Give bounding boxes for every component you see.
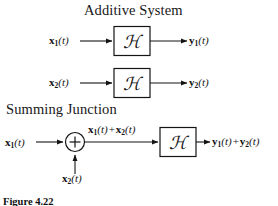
arg-t: (t)	[14, 136, 24, 148]
summing-input-bottom-label: x2(t)	[62, 173, 82, 184]
script-H-icon: ℋ	[169, 133, 190, 153]
adder-circle	[66, 133, 85, 152]
additive-row1-input-label: x1(t)	[49, 35, 69, 46]
arg-t: (t)	[71, 172, 81, 184]
script-H-icon: ℋ	[123, 32, 144, 52]
arg-t: (t)	[221, 135, 231, 147]
summing-input-left-label: x1(t)	[5, 137, 25, 148]
additive-row2-output-label: y2(t)	[189, 77, 209, 88]
additive-row2-input-label: x2(t)	[49, 77, 69, 88]
arg-t: (t)	[198, 76, 208, 88]
plus-operator: +	[108, 123, 116, 135]
additive-row1-group: ℋ	[80, 27, 187, 56]
figure-diagram: Additive System Summing Junction x1(t) y…	[0, 0, 278, 206]
additive-row1-system-block	[114, 27, 150, 56]
arg-t: (t)	[125, 123, 135, 135]
arg-t: (t)	[198, 34, 208, 46]
arg-t: (t)	[249, 135, 259, 147]
summing-junction-title: Summing Junction	[6, 101, 117, 118]
figure-caption: Figure 4.22	[3, 196, 54, 206]
additive-row2-group: ℋ	[80, 69, 187, 98]
arg-t: (t)	[58, 34, 68, 46]
summing-sum-label: x1(t)+x2(t)	[88, 124, 136, 135]
summing-system-block	[160, 128, 196, 157]
arg-t: (t)	[58, 76, 68, 88]
arg-t: (t)	[97, 123, 107, 135]
script-H-icon: ℋ	[123, 74, 144, 94]
plus-operator: +	[232, 135, 240, 147]
additive-system-title: Additive System	[84, 2, 183, 19]
summing-output-label: y1(t)+y2(t)	[212, 136, 260, 147]
additive-row2-system-block	[114, 69, 150, 98]
additive-row1-output-label: y1(t)	[189, 35, 209, 46]
